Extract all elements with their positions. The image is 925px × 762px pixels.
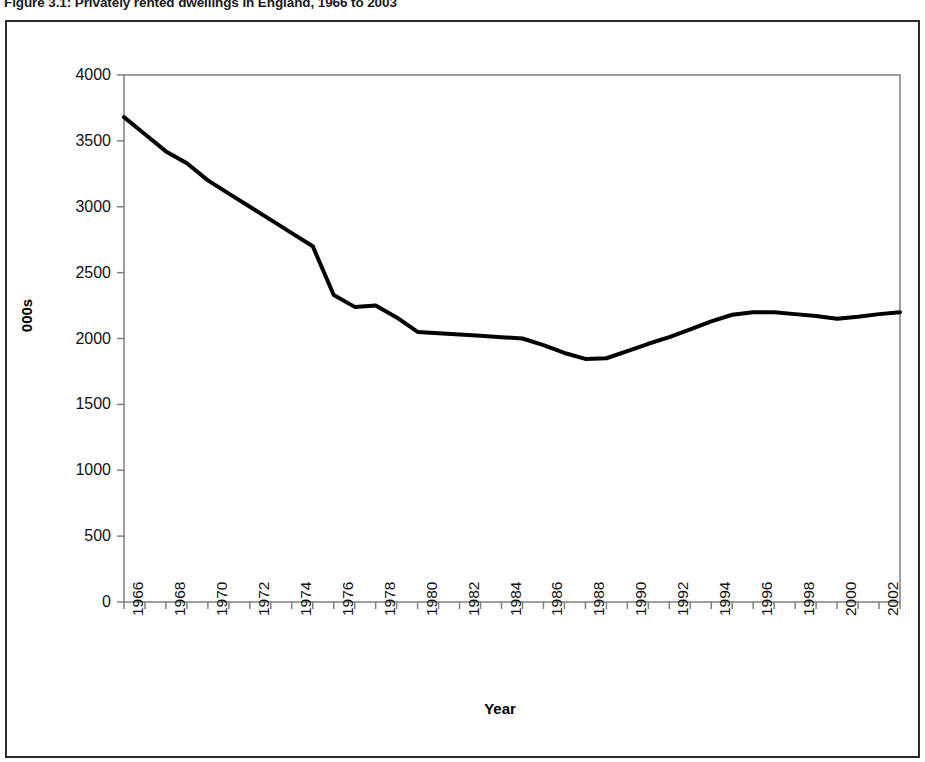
y-axis-tick-label: 0 — [49, 594, 111, 610]
x-axis-tick-label: 1992 — [675, 582, 691, 616]
y-axis-tick-label: 3500 — [49, 133, 111, 149]
x-axis-tick-label: 1976 — [340, 582, 356, 616]
x-axis-tick-label: 1996 — [759, 582, 775, 616]
x-axis-title: Year — [430, 700, 570, 717]
x-axis-tick-label: 2000 — [843, 582, 859, 616]
x-axis-tick-label: 1968 — [172, 582, 188, 616]
y-axis-tick-label: 500 — [49, 528, 111, 544]
x-axis-tick-label: 1994 — [717, 582, 733, 616]
y-axis-title: 000s — [18, 276, 35, 356]
y-axis-ticks — [117, 75, 124, 602]
y-axis-tick-label: 1500 — [49, 396, 111, 412]
x-axis-tick-label: 1978 — [382, 582, 398, 616]
x-axis-tick-label: 1980 — [424, 582, 440, 616]
x-axis-tick-label: 1986 — [549, 582, 565, 616]
y-axis-tick-label: 4000 — [49, 67, 111, 83]
x-axis-tick-label: 1972 — [256, 582, 272, 616]
y-axis-tick-label: 2000 — [49, 331, 111, 347]
x-axis-tick-label: 1974 — [298, 582, 314, 616]
x-axis-tick-label: 1966 — [130, 582, 146, 616]
x-axis-tick-label: 1970 — [214, 582, 230, 616]
chart-plot-svg — [0, 0, 925, 762]
x-axis-tick-label: 1988 — [591, 582, 607, 616]
x-axis-tick-label: 2002 — [885, 582, 901, 616]
line-chart: 05001000150020002500300035004000 1966196… — [0, 0, 925, 762]
y-axis-tick-label: 1000 — [49, 462, 111, 478]
x-axis-tick-label: 1984 — [508, 582, 524, 616]
x-axis-tick-label: 1998 — [801, 582, 817, 616]
x-axis-tick-label: 1990 — [633, 582, 649, 616]
y-axis-tick-label: 3000 — [49, 199, 111, 215]
y-axis-tick-label: 2500 — [49, 265, 111, 281]
x-axis-tick-label: 1982 — [466, 582, 482, 616]
